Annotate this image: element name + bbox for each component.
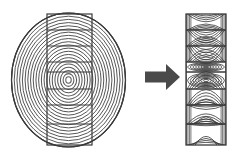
log-outer-boundary	[12, 13, 126, 147]
grain-streak	[230, 72, 231, 89]
grain-streak	[185, 62, 186, 72]
grain-streak	[233, 72, 234, 89]
transform-arrow	[145, 64, 180, 90]
grain-streak	[180, 62, 181, 72]
grain-streak	[233, 62, 234, 72]
grain-streak	[183, 72, 184, 89]
grain-streak	[181, 72, 182, 89]
log-cross-section-group	[12, 13, 126, 147]
grain-streak	[232, 72, 233, 89]
grain-streak	[228, 62, 229, 72]
grain-streak	[227, 62, 228, 72]
grain-streak	[178, 72, 179, 89]
grain-streak	[227, 72, 228, 89]
grain-streak	[180, 72, 181, 89]
transform-arrow-shape	[145, 64, 180, 90]
grain-streak	[183, 62, 184, 72]
board-face-grain-group	[178, 14, 233, 145]
grain-streak	[230, 62, 231, 72]
grain-streak	[228, 72, 229, 89]
diagram-canvas	[0, 0, 240, 154]
grain-streak	[185, 72, 186, 89]
grain-streak	[232, 62, 233, 72]
grain-streak	[178, 62, 179, 72]
diagram-root	[0, 0, 240, 154]
grain-streak	[181, 62, 182, 72]
